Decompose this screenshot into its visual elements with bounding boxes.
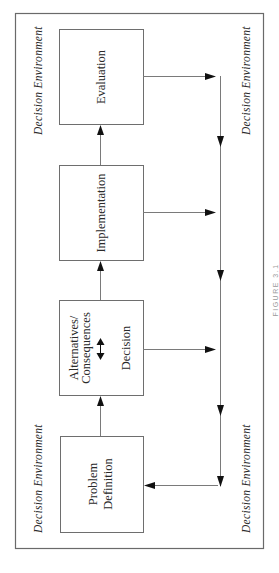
svg-text:Decision Environment: Decision Environment [240, 424, 252, 534]
arrow-alternatives-to-feedback [143, 346, 216, 353]
arrow-evaluation-to-feedback [143, 73, 216, 80]
feedback-line [217, 76, 224, 487]
evaluation-label: Evaluation [94, 49, 108, 104]
env-label-top-left: Decision Environment [32, 26, 44, 136]
figure-caption: FIGURE 3.1 [272, 263, 279, 316]
svg-text:Decision Environment: Decision Environment [240, 26, 252, 136]
arrow-implementation-to-feedback [143, 209, 216, 216]
env-label-bottom-right: Decision Environment [240, 424, 252, 534]
svg-text:Decision: Decision [119, 325, 133, 370]
svg-text:Evaluation: Evaluation [94, 49, 108, 104]
svg-text:Decision Environment: Decision Environment [32, 424, 44, 534]
svg-text:Definition: Definition [101, 458, 115, 510]
problem-definition-label: Problem Definition [86, 458, 115, 510]
arrow-implementation-to-evaluation [97, 125, 104, 165]
decision-process-diagram: Decision Environment Decision Environmen… [0, 0, 279, 573]
svg-text:Decision Environment: Decision Environment [32, 26, 44, 136]
arrow-feedback-to-problem-definition [144, 482, 218, 489]
svg-text:Implementation: Implementation [94, 173, 108, 253]
env-label-bottom-left: Decision Environment [32, 424, 44, 534]
implementation-label: Implementation [94, 173, 108, 253]
svg-text:FIGURE 3.1: FIGURE 3.1 [272, 263, 279, 316]
decision-label: Decision [119, 325, 133, 370]
env-label-top-right: Decision Environment [240, 26, 252, 136]
svg-text:Problem: Problem [86, 463, 100, 506]
alternatives-label: Alternatives/ Consequences [67, 312, 93, 384]
svg-text:Consequences: Consequences [79, 312, 93, 384]
arrow-alternatives-to-implementation [97, 261, 104, 300]
arrow-problem-to-alternatives [97, 396, 104, 436]
